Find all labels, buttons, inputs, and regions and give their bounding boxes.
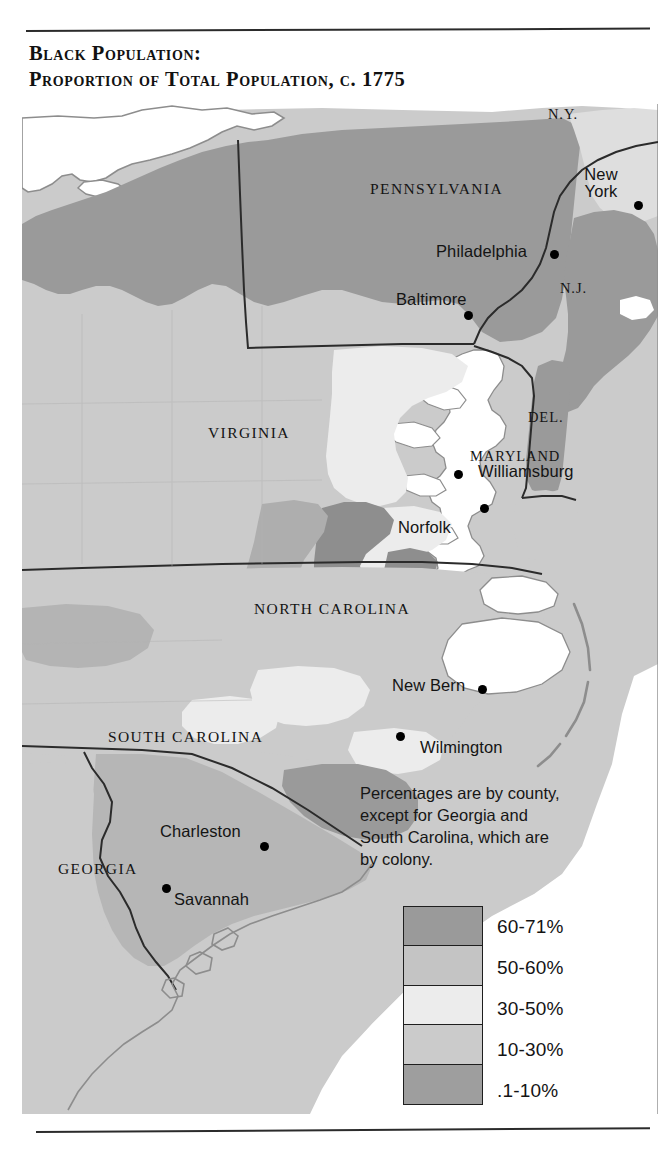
city-dot-williamsburg <box>454 470 463 479</box>
legend-swatch-column <box>403 906 483 1105</box>
legend-label-10-30: 10-30% <box>497 1029 564 1070</box>
map-note: Percentages are by county, except for Ge… <box>360 783 628 871</box>
title-line-1: Black Population: <box>29 40 629 66</box>
map-note-line-3: South Carolina, which are <box>360 827 628 849</box>
legend-swatch-60-71 <box>404 907 482 946</box>
legend-swatch-50-60 <box>404 946 482 985</box>
legend-label-50-60: 50-60% <box>497 947 564 988</box>
city-dot-savannah <box>162 884 171 893</box>
city-dot-wilmington <box>396 732 405 741</box>
city-dot-norfolk <box>480 504 489 513</box>
city-dot-baltimore <box>464 311 473 320</box>
legend-swatch-30-50 <box>404 986 482 1025</box>
title-line-2: Proportion of Total Population, c. 1775 <box>29 66 629 92</box>
legend-swatch-10-30 <box>404 1025 482 1064</box>
divider-bottom <box>36 1127 650 1133</box>
city-dot-philadelphia <box>550 250 559 259</box>
legend-label-column: 60-71% 50-60% 30-50% 10-30% .1-10% <box>497 906 564 1111</box>
map-page: Black Population: Proportion of Total Po… <box>0 0 658 1161</box>
legend-swatch-01-10 <box>404 1065 482 1104</box>
city-dot-new-york <box>634 201 643 210</box>
map-note-line-1: Percentages are by county, <box>360 783 628 805</box>
map-note-line-4: by colony. <box>360 849 628 871</box>
city-dot-charleston <box>260 842 269 851</box>
divider-top <box>26 28 650 32</box>
city-dot-new-bern <box>478 685 487 694</box>
map-note-line-2: except for Georgia and <box>360 805 628 827</box>
legend-label-01-10: .1-10% <box>497 1070 564 1111</box>
albemarle-sound <box>480 576 558 614</box>
legend-label-60-71: 60-71% <box>497 906 564 947</box>
page-title: Black Population: Proportion of Total Po… <box>29 40 629 92</box>
legend-label-30-50: 30-50% <box>497 988 564 1029</box>
